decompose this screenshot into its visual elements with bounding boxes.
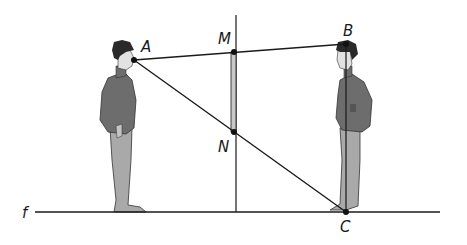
label-n: N — [218, 138, 229, 156]
label-a: A — [140, 38, 151, 56]
mirror-diagram: A M N B C f — [0, 0, 467, 245]
point-n — [231, 129, 237, 135]
point-c — [343, 209, 349, 215]
label-b: B — [343, 22, 353, 40]
label-f: f — [22, 204, 30, 222]
label-m: M — [218, 30, 231, 48]
label-c: C — [340, 218, 351, 236]
left-person-figure — [100, 40, 146, 212]
right-person-figure — [330, 40, 372, 212]
sight-line-a-c — [134, 60, 346, 212]
point-a — [131, 57, 137, 63]
point-b — [343, 41, 349, 47]
point-m — [231, 49, 237, 55]
diagram-canvas: A M N B C f — [0, 0, 467, 245]
mirror-strip — [231, 52, 236, 132]
sight-line-a-b — [134, 44, 346, 60]
